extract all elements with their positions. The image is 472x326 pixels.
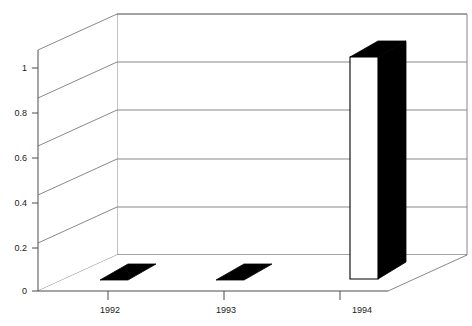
back-wall-panel: [117, 14, 467, 255]
left-side-wall: [38, 14, 117, 291]
x-axis-labels: 1992 1993 1994: [100, 305, 372, 315]
y-axis-labels: 1 0.8 0.6 0.4 0.2 0: [14, 63, 27, 296]
y-tick-label: 0.2: [14, 243, 27, 253]
y-axis: [32, 50, 38, 291]
y-tick-label: 0.6: [14, 153, 27, 163]
y-tick-label: 0: [22, 286, 27, 296]
y-tick-label: 0.4: [14, 198, 27, 208]
back-wall: [117, 14, 467, 255]
bar-front-face[interactable]: [350, 57, 378, 279]
y-tick-label: 0.8: [14, 108, 27, 118]
bar-chart-3d: 1 0.8 0.6 0.4 0.2 0: [0, 0, 472, 326]
y-tick-label: 1: [22, 63, 27, 73]
x-axis: [108, 291, 340, 300]
bar-side-face[interactable]: [378, 41, 406, 279]
left-wall-panel: [38, 14, 117, 291]
x-tick-label: 1994: [352, 305, 372, 315]
bar-1994[interactable]: [350, 41, 406, 279]
x-tick-label: 1992: [100, 305, 120, 315]
chart-container: 1 0.8 0.6 0.4 0.2 0: [0, 0, 472, 326]
x-tick-label: 1993: [216, 305, 236, 315]
